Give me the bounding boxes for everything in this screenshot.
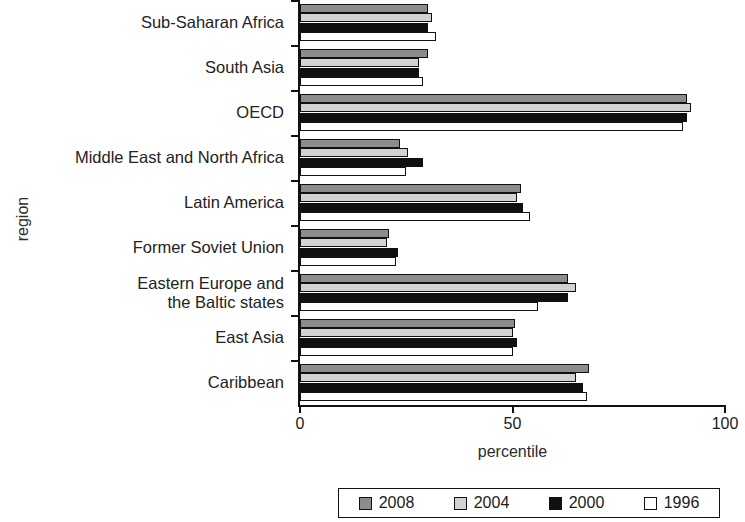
bar-1996	[300, 257, 396, 266]
legend-item-1996[interactable]: 1996	[644, 494, 700, 512]
bar-2000	[300, 158, 423, 167]
x-axis-tick-label: 0	[296, 415, 305, 433]
legend-item-2000[interactable]: 2000	[549, 494, 605, 512]
bar-2008	[300, 49, 428, 58]
x-axis-tick-label: 50	[504, 415, 522, 433]
bar-2004	[300, 103, 691, 112]
category-label: South Asia	[205, 58, 284, 77]
category-label: Latin America	[184, 193, 284, 212]
x-axis-title: percentile	[300, 443, 725, 461]
x-axis-tick-label: 100	[712, 415, 739, 433]
bar-2008	[300, 4, 428, 13]
bar-2000	[300, 248, 398, 257]
bar-2004	[300, 238, 387, 247]
bar-chart: region CaribbeanEast AsiaEastern Europe …	[0, 0, 745, 522]
plot-area: percentile 050100	[300, 0, 725, 405]
y-axis-tick	[291, 180, 299, 182]
bar-2000	[300, 383, 583, 392]
bar-2004	[300, 328, 513, 337]
bar-2004	[300, 193, 517, 202]
bar-2000	[300, 338, 517, 347]
bar-2004	[300, 58, 419, 67]
x-axis-tick	[299, 405, 301, 413]
bar-1996	[300, 212, 530, 221]
bar-2004	[300, 13, 432, 22]
y-axis-tick	[291, 0, 299, 2]
bar-2000	[300, 293, 568, 302]
bar-2008	[300, 319, 515, 328]
category-label: Middle East and North Africa	[75, 148, 284, 167]
bar-2008	[300, 274, 568, 283]
category-label: Eastern Europe and the Baltic states	[137, 274, 284, 312]
bar-2008	[300, 364, 589, 373]
legend-swatch-icon	[454, 497, 467, 510]
legend: 2008200420001996	[338, 488, 720, 518]
bar-2008	[300, 229, 389, 238]
y-axis-tick	[291, 45, 299, 47]
bar-2000	[300, 113, 687, 122]
legend-swatch-icon	[549, 497, 562, 510]
category-axis-labels: CaribbeanEast AsiaEastern Europe and the…	[0, 0, 292, 405]
bar-2000	[300, 68, 419, 77]
bar-2008	[300, 94, 687, 103]
bar-1996	[300, 77, 423, 86]
y-axis-tick	[291, 225, 299, 227]
legend-swatch-icon	[359, 497, 372, 510]
bar-2004	[300, 283, 576, 292]
bar-1996	[300, 302, 538, 311]
bar-2004	[300, 148, 408, 157]
bar-2004	[300, 373, 576, 382]
bar-2008	[300, 139, 400, 148]
y-axis-tick	[291, 90, 299, 92]
bar-1996	[300, 32, 436, 41]
x-axis-tick	[512, 405, 514, 413]
category-label: Caribbean	[208, 373, 284, 392]
bar-1996	[300, 167, 406, 176]
bar-1996	[300, 392, 587, 401]
bar-2000	[300, 23, 428, 32]
bar-2008	[300, 184, 521, 193]
bar-2000	[300, 203, 523, 212]
bar-1996	[300, 122, 683, 131]
y-axis-tick	[291, 270, 299, 272]
legend-label: 2004	[474, 494, 510, 512]
category-label: Former Soviet Union	[133, 238, 284, 257]
legend-label: 2000	[569, 494, 605, 512]
legend-label: 1996	[664, 494, 700, 512]
y-axis-tick	[291, 315, 299, 317]
legend-item-2008[interactable]: 2008	[359, 494, 415, 512]
category-label: East Asia	[215, 328, 284, 347]
y-axis-tick	[291, 360, 299, 362]
bar-1996	[300, 347, 513, 356]
category-label: Sub-Saharan Africa	[141, 13, 284, 32]
legend-item-2004[interactable]: 2004	[454, 494, 510, 512]
legend-label: 2008	[379, 494, 415, 512]
category-label: OECD	[236, 103, 284, 122]
y-axis-tick	[291, 135, 299, 137]
legend-swatch-icon	[644, 497, 657, 510]
x-axis-tick	[724, 405, 726, 413]
